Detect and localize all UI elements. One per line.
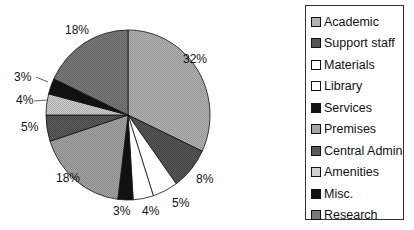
legend-swatch-icon <box>311 103 321 113</box>
legend-label: Materials <box>324 58 375 72</box>
legend-swatch-icon <box>311 124 321 134</box>
legend-label: Amenities <box>324 165 379 179</box>
legend-swatch-icon <box>311 38 321 48</box>
leader-line <box>34 100 47 101</box>
legend-label: Misc. <box>324 187 353 201</box>
slice-percent-label: 18% <box>56 171 80 185</box>
legend-item: Academic <box>306 11 403 33</box>
slice-percent-label: 32% <box>183 52 207 66</box>
leader-line <box>36 77 48 82</box>
legend-swatch-icon <box>311 60 321 70</box>
legend-label: Academic <box>324 15 379 29</box>
slice-percent-label: 8% <box>196 172 214 186</box>
legend-item: Materials <box>306 54 403 76</box>
legend-item: Misc. <box>306 183 403 205</box>
slice-percent-label: 3% <box>14 70 32 84</box>
legend-item: Services <box>306 97 403 119</box>
legend-item: Support staff <box>306 33 403 55</box>
legend-label: Services <box>324 101 372 115</box>
slice-percent-label: 5% <box>172 196 190 210</box>
legend-item: Central Admin <box>306 140 403 162</box>
pie-chart: 32%8%5%4%3%18%5%4%3%18% <box>0 0 300 230</box>
legend-swatch-icon <box>311 189 321 199</box>
legend-label: Premises <box>324 122 376 136</box>
slice-percent-label: 4% <box>142 204 160 218</box>
legend-swatch-icon <box>311 210 321 220</box>
legend-swatch-icon <box>311 167 321 177</box>
legend-item: Library <box>306 76 403 98</box>
legend-label: Library <box>324 79 362 93</box>
legend-item: Research <box>306 205 403 227</box>
slice-percent-label: 5% <box>21 120 39 134</box>
slice-percent-label: 3% <box>113 204 131 218</box>
legend-label: Research <box>324 208 378 222</box>
legend-swatch-icon <box>311 146 321 156</box>
legend-label: Central Admin <box>324 144 403 158</box>
legend-item: Premises <box>306 119 403 141</box>
slice-percent-label: 4% <box>16 93 34 107</box>
legend: AcademicSupport staffMaterialsLibrarySer… <box>305 5 404 220</box>
legend-label: Support staff <box>324 36 395 50</box>
legend-item: Amenities <box>306 162 403 184</box>
legend-swatch-icon <box>311 17 321 27</box>
legend-swatch-icon <box>311 81 321 91</box>
slice-percent-label: 18% <box>65 23 89 37</box>
